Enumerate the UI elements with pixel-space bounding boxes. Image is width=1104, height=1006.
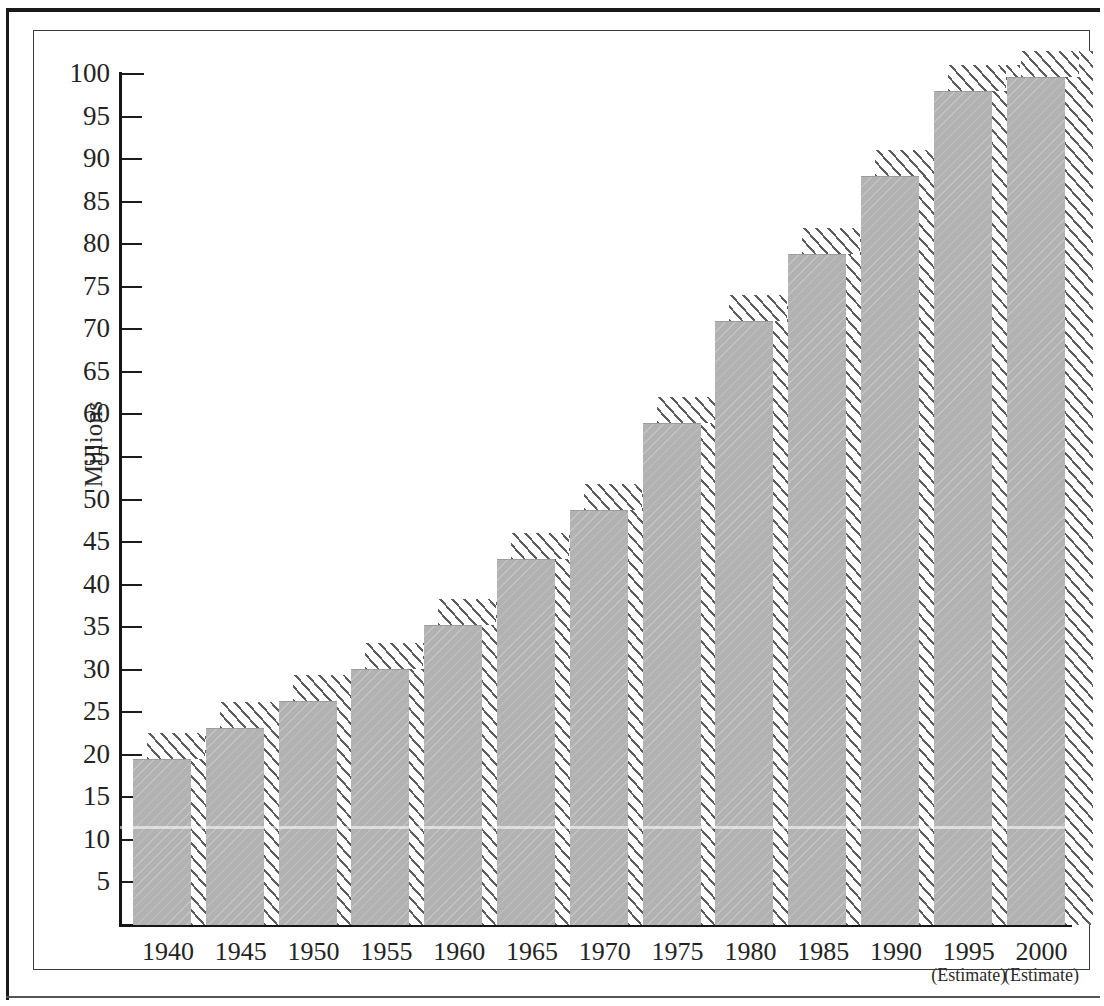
bar-top-face: [147, 733, 205, 759]
y-axis-tick-label: 70: [48, 315, 110, 342]
bar-front-face: [1007, 77, 1065, 925]
y-axis-tick-label: 35: [48, 613, 110, 640]
y-axis-tick-label: 25: [48, 698, 110, 725]
bar-front-face: [279, 701, 337, 925]
x-axis-label-year: 1990: [870, 937, 922, 966]
figure-page: Millions 1009590858075706560555045403530…: [0, 0, 1104, 1006]
bar-front-face: [861, 176, 919, 925]
bar-front-face: [424, 625, 482, 925]
x-axis-label-year: 2000: [1016, 937, 1068, 966]
x-axis-label-note: (Estimate): [997, 966, 1087, 985]
bar-top-face: [1021, 51, 1079, 77]
bar-top-face: [293, 675, 351, 701]
y-axis-tick-label: 15: [48, 783, 110, 810]
bar-top-face: [511, 533, 569, 559]
y-axis-tick-label: 45: [48, 528, 110, 555]
bar-top-face: [438, 599, 496, 625]
y-axis-tick-label: 60: [48, 400, 110, 427]
y-axis-tick-label: 95: [48, 103, 110, 130]
bar-front-face: [934, 91, 992, 925]
x-axis-label-year: 1955: [360, 937, 412, 966]
bar-front-face: [133, 759, 191, 925]
y-axis-tick-label: 100: [48, 60, 110, 87]
bar-chart: Millions 1009590858075706560555045403530…: [0, 0, 1104, 1006]
bar-front-face: [570, 510, 628, 925]
bar-front-face: [715, 321, 773, 925]
bar: [1007, 0, 1093, 925]
x-axis-label-year: 1970: [579, 937, 631, 966]
bar-top-face: [948, 65, 1006, 91]
bar-front-face: [643, 423, 701, 925]
bar-top-face: [657, 397, 715, 423]
bar-top-face: [802, 228, 860, 254]
bar-front-face: [351, 669, 409, 925]
x-axis-label-year: 1980: [724, 937, 776, 966]
bar-top-face: [220, 702, 278, 728]
bar-top-face: [365, 643, 423, 669]
y-axis-tick-label: 65: [48, 358, 110, 385]
x-axis-label-year: 1965: [506, 937, 558, 966]
y-axis-tick-label: 50: [48, 486, 110, 513]
x-axis-label-year: 1975: [652, 937, 704, 966]
bar-side-face: [1065, 51, 1093, 925]
x-axis-label-year: 1950: [288, 937, 340, 966]
bar-top-face: [729, 295, 787, 321]
x-axis-label-year: 1960: [433, 937, 485, 966]
y-axis-tick-label: 75: [48, 273, 110, 300]
y-axis-tick-label: 5: [48, 868, 110, 895]
y-axis-tick-label: 80: [48, 230, 110, 257]
x-axis-label-year: 1945: [215, 937, 267, 966]
y-axis-tick-label: 85: [48, 188, 110, 215]
x-axis-label-year: 1995: [943, 937, 995, 966]
y-axis-tick-label: 90: [48, 145, 110, 172]
y-axis-tick-label: 40: [48, 571, 110, 598]
bar-front-face: [788, 254, 846, 925]
y-axis-tick-label: 10: [48, 826, 110, 853]
y-axis-tick-label: 30: [48, 656, 110, 683]
y-axis-tick-label: 20: [48, 741, 110, 768]
bar-top-face: [875, 150, 933, 176]
x-axis-label: 2000(Estimate): [997, 938, 1087, 985]
x-axis-label-year: 1940: [142, 937, 194, 966]
x-axis-label-year: 1985: [797, 937, 849, 966]
bar-front-face: [206, 728, 264, 925]
bar-front-face: [497, 559, 555, 925]
bar-top-face: [584, 484, 642, 510]
y-axis-tick-label: 55: [48, 443, 110, 470]
